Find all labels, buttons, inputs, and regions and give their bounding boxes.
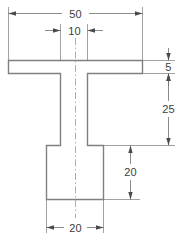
arrow-head-10-left <box>53 28 61 32</box>
arrow-head-50-left <box>9 11 17 15</box>
dim-label-flange-thickness: 5 <box>165 61 171 73</box>
dimension-base-width: 20 <box>47 219 104 235</box>
arrow-head-20h-left <box>47 225 55 229</box>
dim-label-base-height: 20 <box>124 166 137 178</box>
dim-label-flange-width: 50 <box>69 8 82 20</box>
dim-label-web-width: 10 <box>68 25 81 37</box>
t-section-drawing: 50 10 5 25 <box>0 0 182 235</box>
arrow-head-20v-bottom <box>128 192 132 200</box>
arrow-head-5-top <box>166 53 170 61</box>
arrow-head-25-bottom <box>166 138 170 146</box>
technical-drawing-canvas: 50 10 5 25 <box>0 0 182 235</box>
dimension-web-height: 25 <box>159 74 179 146</box>
dimension-web-width: 10 <box>45 25 103 37</box>
dim-label-base-width: 20 <box>69 222 82 234</box>
arrow-head-25-top <box>166 74 170 82</box>
arrow-head-50-right <box>135 11 143 15</box>
dimension-base-height: 20 <box>120 146 142 200</box>
dimension-flange-width: 50 <box>9 5 143 22</box>
dim-label-web-height: 25 <box>162 103 175 115</box>
arrow-head-10-right <box>88 28 96 32</box>
arrow-head-20v-top <box>128 146 132 154</box>
arrow-head-20h-right <box>96 225 104 229</box>
